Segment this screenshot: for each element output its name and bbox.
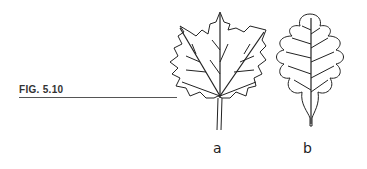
leaf-b-drawing bbox=[277, 14, 344, 126]
leaf-a-drawing bbox=[170, 12, 266, 130]
panel-a-label: a bbox=[213, 140, 222, 156]
panel-b-label: b bbox=[303, 140, 312, 156]
